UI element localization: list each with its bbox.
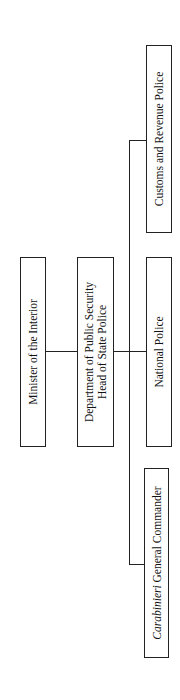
node-label-italic: Carabinieri [150,585,162,639]
node-label-rest: General Commander [150,486,162,585]
connector-minister-department [46,351,77,352]
node-minister-of-the-interior: Minister of the Interior [20,257,46,447]
connector-to-customs [129,140,146,141]
node-label-line1: Department of Public Security [83,282,96,422]
connector-department-national-police [114,351,146,352]
connector-branch-trunk [129,140,130,565]
node-label: National Police [153,316,166,387]
node-carabinieri-general-commander: Carabinieri General Commander [144,468,169,658]
node-label: Carabinieri General Commander [150,486,163,639]
node-label: Customs and Revenue Police [153,72,166,206]
node-customs-and-revenue-police: Customs and Revenue Police [146,45,172,233]
node-label-line2: Head of State Police [96,282,109,422]
node-national-police: National Police [146,257,172,447]
node-department-of-public-security: Department of Public Security Head of St… [77,257,114,447]
node-label: Department of Public Security Head of St… [83,282,109,422]
node-label: Minister of the Interior [27,299,40,405]
connector-to-carabinieri [129,564,144,565]
